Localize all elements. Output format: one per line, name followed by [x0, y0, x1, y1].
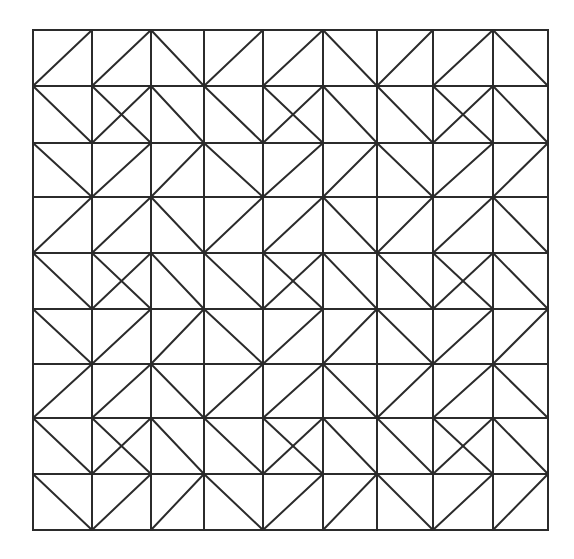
cell-diagonal-rising [263, 309, 323, 364]
cell-diagonal-rising [433, 143, 493, 197]
cell-diagonal-rising [263, 30, 323, 86]
cell-diagonal-falling [151, 86, 204, 143]
cell-diagonal-falling [377, 309, 433, 364]
cell-diagonal-falling [204, 143, 263, 197]
cell-diagonal-rising [204, 364, 263, 418]
cell-diagonal-rising [433, 30, 493, 86]
cell-diagonal-rising [377, 30, 433, 86]
cell-diagonal-falling [33, 86, 92, 143]
cell-diagonal-falling [151, 253, 204, 309]
cell-diagonal-falling [151, 197, 204, 253]
cell-diagonal-falling [377, 474, 433, 530]
cell-diagonal-rising [263, 143, 323, 197]
cell-diagonal-falling [33, 418, 92, 474]
cell-diagonal-rising [92, 143, 151, 197]
cell-diagonal-rising [433, 309, 493, 364]
cell-diagonal-rising [323, 143, 377, 197]
cell-diagonal-falling [33, 474, 92, 530]
cell-diagonal-falling [377, 86, 433, 143]
cell-diagonal-rising [33, 197, 92, 253]
diagonal-lines [33, 30, 548, 530]
cell-diagonal-falling [323, 197, 377, 253]
cell-diagonal-rising [151, 309, 204, 364]
cell-diagonal-rising [92, 364, 151, 418]
cell-diagonal-falling [33, 253, 92, 309]
cell-diagonal-falling [204, 86, 263, 143]
cell-diagonal-falling [323, 418, 377, 474]
cell-diagonal-falling [33, 143, 92, 197]
cell-diagonal-falling [151, 30, 204, 86]
cell-diagonal-falling [151, 364, 204, 418]
cell-diagonal-rising [263, 197, 323, 253]
cell-diagonal-rising [323, 474, 377, 530]
cell-diagonal-rising [151, 474, 204, 530]
cell-diagonal-falling [323, 30, 377, 86]
cell-diagonal-rising [204, 197, 263, 253]
cell-diagonal-rising [92, 474, 151, 530]
cell-diagonal-falling [33, 309, 92, 364]
cell-diagonal-falling [493, 364, 548, 418]
cell-diagonal-falling [377, 253, 433, 309]
cell-diagonal-falling [204, 418, 263, 474]
cell-diagonal-falling [493, 30, 548, 86]
cell-diagonal-rising [204, 30, 263, 86]
cell-diagonal-rising [493, 143, 548, 197]
cell-diagonal-rising [33, 364, 92, 418]
cell-diagonal-falling [323, 86, 377, 143]
cell-diagonal-falling [493, 197, 548, 253]
cell-diagonal-rising [377, 364, 433, 418]
cell-diagonal-rising [151, 143, 204, 197]
cell-diagonal-falling [204, 309, 263, 364]
cell-diagonal-rising [433, 474, 493, 530]
cell-diagonal-rising [92, 197, 151, 253]
cell-diagonal-falling [323, 364, 377, 418]
cell-diagonal-falling [377, 418, 433, 474]
cell-diagonal-rising [493, 474, 548, 530]
cell-diagonal-falling [204, 253, 263, 309]
cell-diagonal-falling [151, 418, 204, 474]
cell-diagonal-falling [493, 86, 548, 143]
cell-diagonal-rising [433, 364, 493, 418]
cell-diagonal-rising [33, 30, 92, 86]
cell-diagonal-rising [493, 309, 548, 364]
cell-diagonal-rising [323, 309, 377, 364]
cell-diagonal-rising [92, 30, 151, 86]
cell-diagonal-rising [263, 474, 323, 530]
cell-diagonal-rising [92, 309, 151, 364]
cell-diagonal-falling [377, 143, 433, 197]
cell-diagonal-falling [323, 253, 377, 309]
cell-diagonal-rising [263, 364, 323, 418]
cell-diagonal-rising [377, 197, 433, 253]
triangle-tiling-diagram [0, 0, 574, 559]
cell-diagonal-rising [433, 197, 493, 253]
cell-diagonal-falling [204, 474, 263, 530]
cell-diagonal-falling [493, 418, 548, 474]
cell-diagonal-falling [493, 253, 548, 309]
